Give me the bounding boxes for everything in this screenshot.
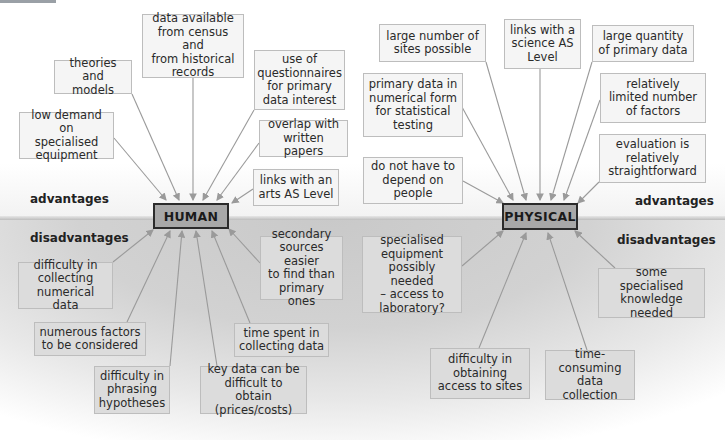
arrow-human-dis-4	[196, 231, 217, 366]
physical-dis-equipment: specialised equipment possibly needed – …	[362, 236, 462, 313]
human-dis-numerous-factors: numerous factors to be considered	[34, 322, 146, 356]
node-physical: PHYSICAL	[502, 203, 578, 230]
arrow-human-dis-2	[127, 231, 170, 322]
arrow-human-dis-6	[229, 229, 260, 263]
physical-adv-limited-factors: relatively limited number of factors	[600, 73, 706, 123]
label-human-advantages: advantages	[30, 192, 109, 206]
physical-adv-many-sites: large number of sites possible	[379, 24, 486, 62]
physical-dis-site-access: difficulty in obtaining access to sites	[430, 348, 530, 399]
arrow-human-adv-1	[114, 138, 166, 200]
human-dis-numerical-data: difficulty in collecting numerical data	[18, 262, 113, 309]
human-adv-arts-link: links with an arts AS Level	[253, 169, 339, 206]
human-dis-key-data: key data can be difficult to obtain (pri…	[200, 366, 307, 414]
human-adv-overlap-papers: overlap with written papers	[259, 120, 348, 157]
arrow-human-adv-2	[132, 94, 179, 200]
node-human: HUMAN	[153, 203, 229, 229]
arrow-physical-adv-2	[462, 107, 513, 200]
physical-adv-science-link: links with a science AS Level	[504, 19, 581, 69]
human-adv-questionnaires: use of questionnaires for primary data i…	[254, 50, 345, 110]
physical-dis-time-consuming: time- consuming data collection	[545, 350, 635, 400]
label-physical-disadvantages: disadvantages	[617, 233, 716, 247]
physical-adv-independent: do not have to depend on people	[363, 157, 463, 204]
physical-adv-primary-data: large quantity of primary data	[592, 25, 694, 62]
human-adv-theories: theories and models	[54, 60, 132, 94]
arrow-physical-adv-3	[486, 62, 526, 200]
arrow-physical-dis-4	[575, 231, 615, 268]
arrow-physical-adv-7	[578, 182, 599, 203]
arrow-human-adv-4	[203, 110, 254, 200]
arrow-human-dis-3	[170, 231, 182, 366]
arrow-physical-dis-1	[462, 231, 503, 266]
arrow-physical-dis-3	[548, 233, 587, 350]
label-human-disadvantages: disadvantages	[30, 231, 129, 245]
physical-dis-knowledge: some specialised knowledge needed	[598, 268, 705, 318]
arrow-physical-dis-2	[479, 233, 526, 348]
label-physical-advantages: advantages	[635, 194, 714, 208]
human-dis-hypotheses: difficulty in phrasing hypotheses	[94, 366, 170, 414]
arrow-human-adv-6	[232, 189, 253, 203]
physical-adv-numerical-form: primary data in numerical form for stati…	[363, 73, 463, 137]
arrow-human-dis-5	[212, 231, 250, 323]
human-dis-time-spent: time spent in collecting data	[234, 323, 329, 357]
human-adv-low-demand: low demand on specialised equipment	[19, 112, 114, 159]
arrow-physical-adv-1	[463, 181, 503, 203]
human-adv-census-data: data available from census and from hist…	[142, 14, 244, 78]
arrow-physical-adv-6	[564, 100, 600, 200]
human-dis-secondary-sources: secondary sources easier to find than pr…	[260, 236, 343, 300]
physical-adv-evaluation: evaluation is relatively straightforward	[599, 134, 706, 183]
